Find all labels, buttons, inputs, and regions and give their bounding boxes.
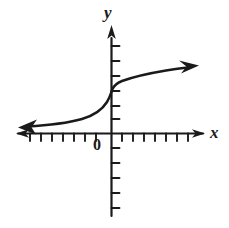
y-axis — [107, 25, 119, 216]
x-axis-ticks — [30, 134, 188, 142]
function-curve — [18, 61, 199, 135]
curve-path — [27, 67, 190, 126]
graph-figure: y x 0 — [0, 0, 229, 228]
x-axis-label: x — [210, 124, 219, 141]
y-axis-label: y — [104, 4, 112, 21]
y-axis-ticks — [112, 46, 120, 208]
coordinate-plot — [0, 0, 229, 228]
origin-label: 0 — [93, 137, 101, 153]
